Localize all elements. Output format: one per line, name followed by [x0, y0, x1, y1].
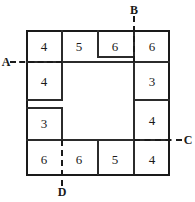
cut-line-C — [134, 139, 182, 141]
cut-label-B: B — [130, 4, 138, 16]
cell-value-bottom-1: 6 — [41, 153, 48, 166]
ring-puzzle-figure: 4 5 6 6 4 3 3 4 6 6 5 4 A B C D — [0, 0, 195, 202]
top-divider-1 — [61, 30, 63, 61]
cell-value-top-1: 4 — [41, 40, 48, 53]
left-column-inner-edge-upper — [61, 61, 63, 100]
cell-value-top-4: 6 — [149, 40, 156, 53]
cut-line-A — [10, 61, 62, 63]
top-band-step-rule — [97, 56, 134, 58]
outer-border-left — [26, 30, 28, 176]
outer-border-right — [168, 30, 170, 176]
right-cell-3-bottom — [133, 99, 170, 101]
cell-value-left-3: 3 — [41, 117, 48, 130]
right-column-inner-edge-upper — [133, 61, 135, 100]
top-divider-2 — [97, 30, 99, 56]
right-column-inner-edge-lower — [133, 99, 135, 174]
bottom-divider-1 — [97, 139, 99, 175]
left-cell-4-bottom — [26, 99, 63, 101]
cell-value-top-2: 5 — [76, 40, 83, 53]
cell-value-bottom-3: 5 — [112, 153, 119, 166]
cell-value-right-3: 4 — [149, 114, 156, 127]
cut-label-C: C — [184, 134, 193, 146]
cell-value-bottom-4: 4 — [149, 153, 156, 166]
cut-line-B — [133, 16, 135, 62]
cell-value-left-2: 4 — [41, 75, 48, 88]
cell-value-right-2: 3 — [149, 75, 156, 88]
cut-label-A: A — [2, 56, 11, 68]
cell-value-top-3: 6 — [112, 40, 119, 53]
cell-value-bottom-2: 6 — [76, 153, 83, 166]
left-cell-3-top — [26, 107, 63, 109]
left-column-inner-edge-lower — [61, 107, 63, 140]
cut-label-D: D — [58, 186, 67, 198]
cut-line-D — [61, 140, 63, 186]
